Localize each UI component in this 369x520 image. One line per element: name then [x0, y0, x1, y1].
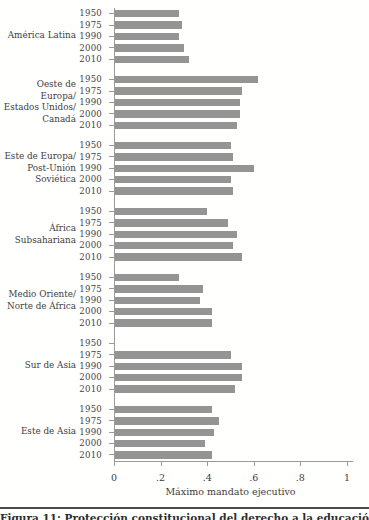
- region-label-line: América Latina: [0, 31, 76, 42]
- bar-row: 2000: [0, 42, 369, 53]
- region-label: Sur de Asia: [0, 361, 76, 372]
- bar-track: [114, 208, 369, 215]
- bar: [114, 10, 179, 17]
- bar-track: [114, 231, 369, 238]
- bar-track: [114, 99, 369, 106]
- bar-row: 2000: [0, 372, 369, 383]
- bar: [114, 242, 233, 249]
- bar: [114, 110, 240, 117]
- bar-track: [114, 417, 369, 424]
- region-label: ÁfricaSubsahariana: [0, 223, 76, 246]
- x-tick: [347, 462, 348, 466]
- region-label-line: Post-Unión: [0, 163, 76, 174]
- bar: [114, 142, 231, 149]
- region-label-line: Este de Europa/: [0, 151, 76, 162]
- bar: [114, 122, 237, 129]
- bar-track: [114, 406, 369, 413]
- region-label: Este de Asia: [0, 426, 76, 437]
- year-label: 1950: [0, 9, 102, 18]
- bar-row: 1950: [0, 404, 369, 415]
- bar: [114, 99, 240, 106]
- x-tick-label: 1: [332, 472, 362, 483]
- bar: [114, 21, 182, 28]
- bar: [114, 406, 212, 413]
- bar-row: 2010: [0, 317, 369, 328]
- bar-track: [114, 297, 369, 304]
- y-axis-line: [114, 8, 115, 461]
- figure-page: América Latina19501975199020002010Oeste …: [0, 0, 369, 520]
- region-label-line: Sur de Asia: [0, 361, 76, 372]
- bar: [114, 219, 228, 226]
- year-label: 1950: [0, 339, 102, 348]
- year-label: 1975: [0, 351, 102, 360]
- bar-track: [114, 56, 369, 63]
- x-tick: [161, 462, 162, 466]
- region-label-line: Medio Oriente/: [0, 289, 76, 300]
- region-group: Sur de Asia19501975199020002010: [0, 338, 369, 395]
- bar-row: 1975: [0, 349, 369, 360]
- bar: [114, 417, 219, 424]
- region-label-line: Subsahariana: [0, 234, 76, 245]
- region-group: América Latina19501975199020002010: [0, 8, 369, 65]
- bar: [114, 208, 207, 215]
- bar-row: 2010: [0, 185, 369, 196]
- bar: [114, 440, 205, 447]
- region-label-line: Soviética: [0, 174, 76, 185]
- region-label: Oeste de Europa/Estados Unidos/Canadá: [0, 80, 76, 126]
- bar: [114, 187, 233, 194]
- bar-track: [114, 374, 369, 381]
- bar-row: 1950: [0, 272, 369, 283]
- bar-track: [114, 142, 369, 149]
- bar-track: [114, 110, 369, 117]
- year-label: 1975: [0, 417, 102, 426]
- region-label-line: Canadá: [0, 114, 76, 125]
- bar-row: 1950: [0, 8, 369, 19]
- bar: [114, 44, 184, 51]
- bar-track: [114, 10, 369, 17]
- bar-track: [114, 285, 369, 292]
- bar-row: 1975: [0, 415, 369, 426]
- region-label: Medio Oriente/Norte de África: [0, 289, 76, 312]
- bar-track: [114, 242, 369, 249]
- region-label-line: Estados Unidos/: [0, 102, 76, 113]
- bar-row: 2010: [0, 383, 369, 394]
- year-label: 2010: [0, 187, 102, 196]
- year-label: 2010: [0, 451, 102, 460]
- year-label: 1950: [0, 207, 102, 216]
- bar-row: 1950: [0, 206, 369, 217]
- bar: [114, 429, 214, 436]
- bar: [114, 385, 235, 392]
- bar-track: [114, 451, 369, 458]
- region-group: Oeste de Europa/Estados Unidos/Canadá195…: [0, 74, 369, 131]
- bar-track: [114, 122, 369, 129]
- year-label: 2010: [0, 55, 102, 64]
- bar: [114, 253, 242, 260]
- x-tick-label: .6: [239, 472, 269, 483]
- bar: [114, 319, 212, 326]
- x-tick: [254, 462, 255, 466]
- bar-row: 2000: [0, 438, 369, 449]
- bar: [114, 308, 212, 315]
- x-tick: [207, 462, 208, 466]
- bar-track: [114, 187, 369, 194]
- caption-divider: [0, 507, 369, 509]
- x-tick-label: .4: [192, 472, 222, 483]
- year-label: 2000: [0, 373, 102, 382]
- bar-track: [114, 319, 369, 326]
- bar-track: [114, 176, 369, 183]
- bar-track: [114, 44, 369, 51]
- x-tick: [114, 462, 115, 466]
- region-group: Este de Europa/Post-UniónSoviética195019…: [0, 140, 369, 197]
- bar: [114, 285, 203, 292]
- x-tick-label: 0: [99, 472, 129, 483]
- bar-track: [114, 429, 369, 436]
- bar-track: [114, 21, 369, 28]
- bar: [114, 87, 242, 94]
- region-label-line: África: [0, 223, 76, 234]
- year-label: 2010: [0, 319, 102, 328]
- year-label: 2000: [0, 44, 102, 53]
- year-label: 1950: [0, 273, 102, 282]
- region-label-line: Oeste de Europa/: [0, 80, 76, 103]
- bar-track: [114, 33, 369, 40]
- region-group: ÁfricaSubsahariana19501975199020002010: [0, 206, 369, 263]
